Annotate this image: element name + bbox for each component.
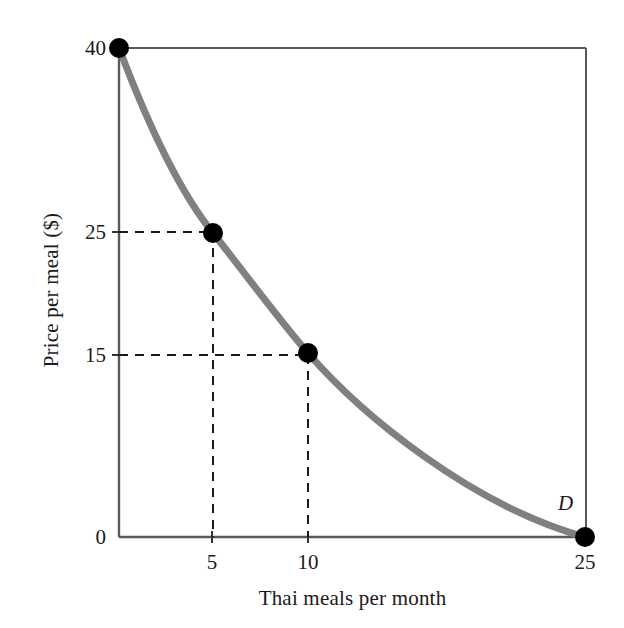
data-point-25-0 (575, 527, 595, 547)
guide-lines (119, 232, 308, 537)
y-tick-label-25: 25 (58, 220, 106, 245)
x-axis-title: Thai meals per month (119, 586, 586, 611)
demand-curve-figure: Price per meal ($) Thai meals per month … (0, 0, 624, 628)
x-tick-label-10: 10 (278, 550, 338, 575)
x-tick-label-25: 25 (555, 550, 615, 575)
plot-area-frame (119, 48, 586, 537)
y-tick-label-0: 0 (58, 525, 106, 550)
x-tick-label-5: 5 (182, 550, 242, 575)
data-point-5-25 (203, 223, 223, 243)
data-point-10-15 (298, 343, 318, 363)
demand-curve-line (119, 48, 585, 537)
data-point-0-40 (109, 38, 129, 58)
data-point-markers (109, 38, 595, 547)
y-axis-title: Price per meal ($) (34, 110, 68, 470)
y-tick-label-15: 15 (58, 343, 106, 368)
demand-curve-label: D (558, 491, 573, 516)
y-tick-label-40: 40 (58, 36, 106, 61)
